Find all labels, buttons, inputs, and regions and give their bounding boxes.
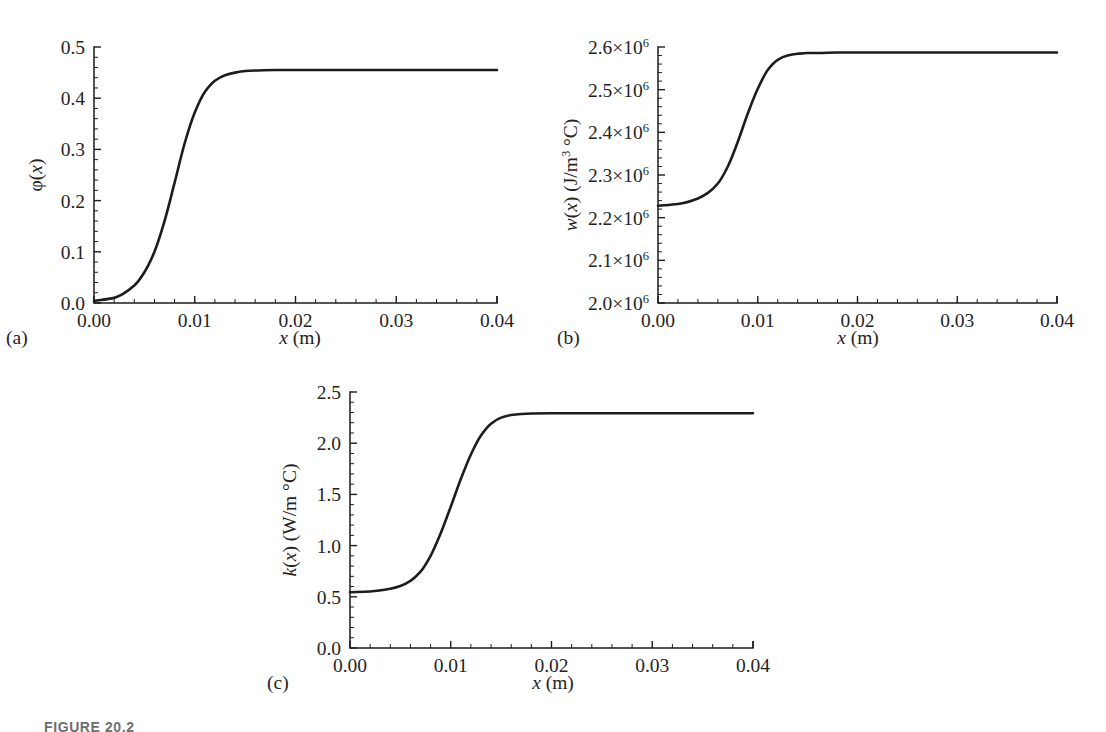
tick-label: 0.1	[61, 242, 85, 263]
tick-label: 0.03	[940, 310, 974, 331]
tick-label: 0.4	[61, 88, 86, 109]
tick-label: 1.0	[317, 536, 341, 557]
plot-c: 0.000.010.020.030.040.00.51.01.52.02.5k(…	[253, 366, 806, 706]
axes	[94, 47, 497, 303]
tick-label: 0.3	[61, 139, 85, 160]
tick-label: 2.5	[317, 382, 341, 403]
tick-label: 1.5	[317, 484, 341, 505]
plot-a: 0.000.010.020.030.040.00.10.20.30.40.5φ(…	[0, 0, 553, 366]
y-axis-label: φ(x)	[25, 159, 47, 192]
tick-label: 0.5	[317, 587, 341, 608]
y-axis-label: w(x) (J/m3 °C)	[559, 119, 582, 232]
data-curve	[350, 413, 753, 592]
data-curve	[94, 70, 497, 301]
tick-label: 0.2	[61, 191, 85, 212]
tick-label: 0.5	[61, 37, 85, 58]
panel-b: 0.000.010.020.030.042.0×1062.1×1062.2×10…	[553, 0, 1106, 366]
x-axis-label: x (m)	[836, 327, 879, 349]
axes	[350, 392, 753, 648]
plot-b: 0.000.010.020.030.042.0×1062.1×1062.2×10…	[553, 0, 1106, 366]
axes	[658, 47, 1057, 303]
tick-label: 2.1×106	[588, 249, 649, 271]
y-axis-label: k(x) (W/m °C)	[279, 464, 301, 577]
tick-label: 2.2×106	[588, 207, 649, 229]
tick-label: 0.01	[741, 310, 775, 331]
tick-label: 0.03	[635, 655, 669, 676]
x-axis-label: x (m)	[278, 327, 321, 349]
panel-letter-b: (b)	[557, 327, 580, 349]
panel-letter-c: (c)	[267, 672, 289, 694]
figure-caption: FIGURE 20.2	[44, 719, 135, 732]
panel-a: 0.000.010.020.030.040.00.10.20.30.40.5φ(…	[0, 0, 553, 366]
tick-label: 0.04	[736, 655, 770, 676]
panel-c: 0.000.010.020.030.040.00.51.01.52.02.5k(…	[253, 366, 806, 706]
tick-label: 0.0	[317, 638, 341, 659]
tick-label: 0.01	[434, 655, 468, 676]
tick-label: 0.01	[178, 310, 212, 331]
tick-label: 0.0	[61, 293, 85, 314]
tick-label: 2.4×106	[588, 121, 649, 143]
tick-label: 0.04	[1040, 310, 1074, 331]
data-curve	[658, 53, 1057, 206]
tick-label: 0.03	[379, 310, 413, 331]
x-axis-label: x (m)	[531, 672, 574, 694]
tick-label: 0.04	[480, 310, 514, 331]
tick-label: 2.0×106	[588, 292, 649, 314]
tick-label: 0.00	[641, 310, 675, 331]
tick-label: 2.6×106	[588, 36, 649, 58]
tick-label: 2.3×106	[588, 164, 649, 186]
panel-letter-a: (a)	[6, 327, 28, 349]
figure-sheet: 0.000.010.020.030.040.00.10.20.30.40.5φ(…	[0, 0, 1106, 732]
tick-label: 2.5×106	[588, 79, 649, 101]
tick-label: 2.0	[317, 433, 341, 454]
